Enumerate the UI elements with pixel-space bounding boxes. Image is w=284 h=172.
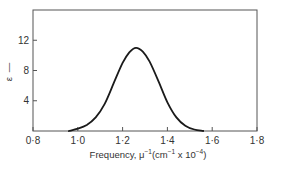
absorption-chart: 0·81·01·21·41·61·8 4812 ε — Frequency, μ… bbox=[0, 0, 284, 172]
x-tick-label: 0·8 bbox=[26, 135, 41, 146]
plot-frame bbox=[33, 10, 257, 131]
y-tick-label: 8 bbox=[23, 65, 29, 76]
x-tick-label: 1·2 bbox=[115, 135, 130, 146]
y-axis-label: ε — bbox=[3, 62, 14, 81]
x-tick-label: 1·6 bbox=[205, 135, 220, 146]
x-tick-label: 1·8 bbox=[250, 135, 265, 146]
x-tick-label: 1·0 bbox=[71, 135, 86, 146]
y-tick-label: 12 bbox=[18, 35, 30, 46]
x-tick-label: 1·4 bbox=[160, 135, 175, 146]
y-tick-label: 4 bbox=[23, 95, 29, 106]
absorption-curve bbox=[69, 48, 203, 131]
x-axis-label: Frequency, μ−1(cm−1 x 10−4) bbox=[90, 148, 207, 160]
x-axis-ticks: 0·81·01·21·41·61·8 bbox=[26, 127, 265, 146]
y-axis-ticks: 4812 bbox=[18, 35, 37, 107]
